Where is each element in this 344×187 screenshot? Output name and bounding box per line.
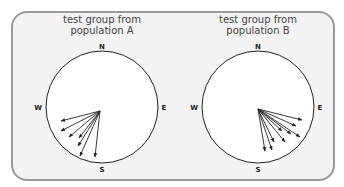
panel-a-west-label: W [34, 104, 42, 112]
panel-a-circle [46, 51, 158, 163]
panel-b-east-label: E [318, 104, 323, 112]
panel-b-west-label: W [190, 104, 198, 112]
panel-a-south-label: S [99, 166, 104, 174]
panel-a-compass: N E S W [34, 43, 166, 174]
panel-a-north-label: N [99, 43, 105, 51]
panel-b-compass: N E S W [190, 43, 322, 174]
panel-a-east-label: E [162, 104, 167, 112]
compass-diagrams: N E S W N E S W [0, 0, 344, 187]
panel-b-circle [202, 51, 314, 163]
panel-b-south-label: S [255, 166, 260, 174]
panel-b-north-label: N [255, 43, 261, 51]
